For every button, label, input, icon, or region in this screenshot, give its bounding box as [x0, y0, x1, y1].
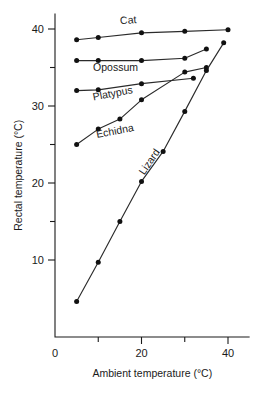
- line-chart: 1020304002040CatOpossumPlatypusEchidnaLi…: [0, 0, 264, 393]
- data-point: [191, 76, 196, 81]
- data-point: [204, 68, 209, 73]
- series-label-lizard: Lizard: [136, 146, 162, 177]
- chart-container: 1020304002040CatOpossumPlatypusEchidnaLi…: [0, 0, 264, 393]
- y-axis-tick-label: 10: [32, 254, 44, 266]
- data-point: [226, 27, 231, 32]
- x-axis-tick-label: 20: [135, 347, 147, 359]
- series-label-echidna: Echidna: [95, 121, 135, 140]
- series-cat: [74, 27, 230, 42]
- data-point: [139, 179, 144, 184]
- data-point: [74, 299, 79, 304]
- series-label-cat: Cat: [120, 13, 137, 26]
- data-point: [74, 37, 79, 42]
- series-echidna: [74, 65, 209, 147]
- y-axis-tick-label: 20: [32, 177, 44, 189]
- data-point: [117, 219, 122, 224]
- data-point: [139, 97, 144, 102]
- y-axis-tick-label: 30: [32, 100, 44, 112]
- x-axis-tick-label: 0: [52, 347, 58, 359]
- data-point: [96, 35, 101, 40]
- data-point: [74, 142, 79, 147]
- data-point: [139, 30, 144, 35]
- y-axis-title: Rectal temperature (°C): [12, 120, 24, 231]
- data-point: [117, 117, 122, 122]
- series-lizard: [74, 40, 226, 304]
- series-line-platypus: [77, 78, 194, 90]
- data-point: [182, 56, 187, 61]
- x-axis-tick-label: 40: [222, 347, 234, 359]
- data-point: [204, 47, 209, 52]
- data-point: [74, 88, 79, 93]
- x-axis-title: Ambient temperature (°C): [92, 367, 212, 379]
- data-point: [139, 81, 144, 86]
- y-axis-tick-label: 40: [32, 23, 44, 35]
- data-point: [139, 58, 144, 63]
- series-label-opossum: Opossum: [93, 61, 138, 73]
- data-point: [96, 260, 101, 265]
- data-point: [182, 70, 187, 75]
- series-label-platypus: Platypus: [92, 83, 134, 102]
- data-point: [182, 29, 187, 34]
- data-point: [182, 109, 187, 114]
- data-point: [74, 58, 79, 63]
- data-point: [221, 40, 226, 45]
